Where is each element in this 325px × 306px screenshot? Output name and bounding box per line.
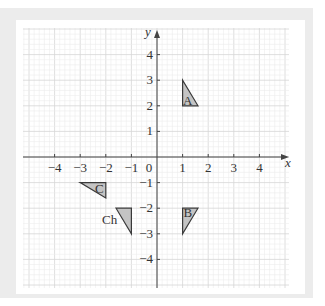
- x-tick-label: −3: [73, 160, 87, 175]
- triangle-label-b: B: [183, 205, 192, 220]
- y-tick-label: −4: [139, 251, 153, 266]
- x-tick-label: 4: [256, 160, 263, 175]
- y-tick-label: 2: [147, 98, 154, 113]
- y-tick-label: 4: [147, 47, 154, 62]
- y-tick-label: −2: [139, 200, 153, 215]
- triangle-label-ch: Ch: [102, 212, 118, 227]
- origin-label: 0: [146, 160, 153, 175]
- x-tick-label: −2: [99, 160, 113, 175]
- y-tick-label: 1: [147, 123, 154, 138]
- y-tick-label: 3: [147, 72, 154, 87]
- x-tick-label: 3: [231, 160, 238, 175]
- y-tick-label: −1: [139, 175, 153, 190]
- y-tick-label: −3: [139, 226, 153, 241]
- coordinate-plane: xy0−4−3−2−112344321−1−2−3−4ABCCh: [0, 0, 325, 306]
- triangle-label-c: C: [95, 181, 104, 196]
- x-tick-label: 1: [179, 160, 186, 175]
- x-tick-label: 2: [205, 160, 212, 175]
- x-tick-label: −1: [124, 160, 138, 175]
- triangle-ch: [116, 208, 131, 234]
- y-axis-label: y: [143, 24, 151, 39]
- x-tick-label: −4: [48, 160, 62, 175]
- triangle-label-a: A: [183, 93, 193, 108]
- x-axis-label: x: [284, 155, 291, 170]
